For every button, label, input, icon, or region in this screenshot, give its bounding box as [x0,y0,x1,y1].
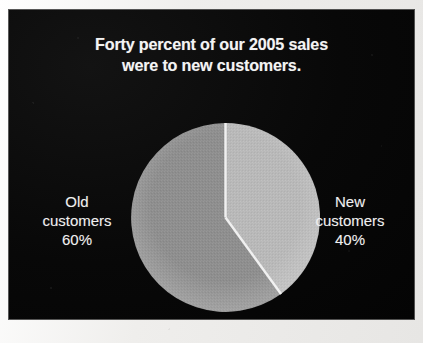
label-new-customers-value: 40% [300,230,400,249]
label-old-customers-value: 60% [27,230,127,249]
label-old-customers-line-1: Old [27,192,127,211]
label-new-customers: New customers 40% [300,192,400,249]
slide-panel: Forty percent of our 2005 sales were to … [9,10,414,319]
pie-chart [131,123,320,312]
page-title: Forty percent of our 2005 sales were to … [19,34,404,76]
pie-rim-highlight [132,124,320,312]
label-new-customers-line-2: customers [300,211,400,230]
pie-chart-svg [131,123,320,312]
label-new-customers-line-1: New [300,192,400,211]
title-line-2: were to new customers. [19,55,404,76]
scanned-page: Forty percent of our 2005 sales were to … [0,0,423,343]
label-old-customers: Old customers 60% [27,192,127,249]
label-old-customers-line-2: customers [27,211,127,230]
title-line-1: Forty percent of our 2005 sales [19,34,404,55]
